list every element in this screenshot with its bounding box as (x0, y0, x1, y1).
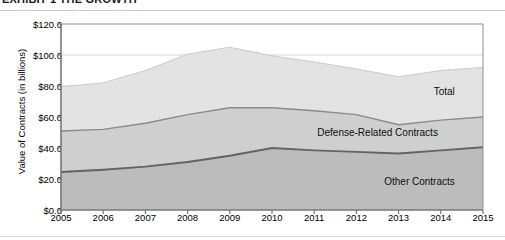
x-axis-tick-label: 2014 (430, 212, 451, 223)
x-axis-tick-label: 2010 (261, 212, 282, 223)
x-axis-tick-label: 2012 (346, 212, 367, 223)
x-axis-tick-label: 2013 (388, 212, 409, 223)
x-axis-tick-label: 2005 (50, 212, 71, 223)
x-axis-tick-label: 2009 (219, 212, 240, 223)
x-axis-tick-label: 2007 (135, 212, 156, 223)
bottom-divider (0, 236, 505, 237)
series-label: Defense-Related Contracts (0, 127, 438, 138)
x-axis-tick-label: 2008 (177, 212, 198, 223)
x-axis-tick-label: 2011 (304, 212, 324, 223)
series-label: Other Contracts (0, 176, 455, 187)
x-axis-tick-labels: 2005200620072008200920102011201220132014… (0, 212, 505, 232)
x-axis-tick-label: 2006 (93, 212, 114, 223)
series-label: Total (0, 86, 455, 97)
area-chart-plot (0, 0, 505, 240)
chart-figure: EXHIBIT 1 THE GROWTH Value of Contracts … (0, 0, 505, 240)
x-axis-tick-label: 2015 (472, 212, 493, 223)
